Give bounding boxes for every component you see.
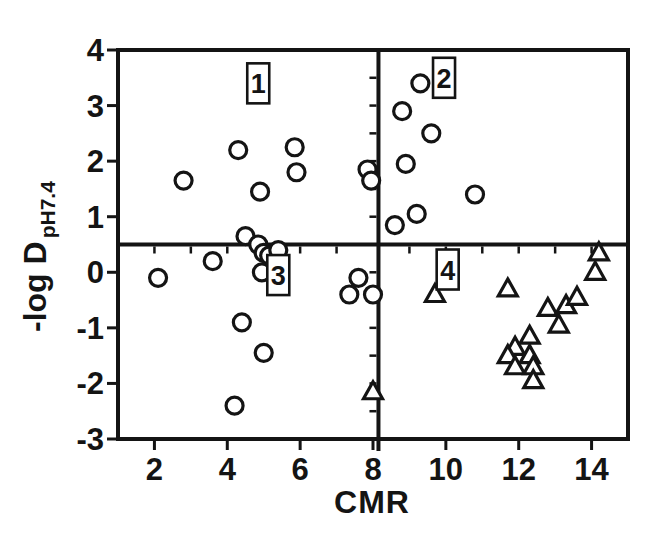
data-point-circle — [252, 183, 269, 200]
x-tick-label: 14 — [574, 452, 609, 487]
data-point-circle — [233, 314, 250, 331]
data-point-triangle — [568, 287, 587, 304]
y-tick-label: 1 — [87, 200, 104, 235]
x-tick-label: 12 — [501, 452, 535, 487]
quadrant-label-number: 3 — [271, 261, 286, 291]
quadrant-label-number: 1 — [251, 69, 266, 99]
data-point-circle — [467, 186, 484, 203]
data-point-circle — [365, 286, 382, 303]
y-tick-label: 2 — [87, 144, 104, 179]
y-tick-label: -1 — [76, 311, 104, 346]
axes-layer: 246810121443210-1-2-3 — [76, 33, 628, 487]
data-point-circle — [394, 103, 411, 120]
y-axis-title: -log DpH7.4 — [17, 181, 59, 332]
scatter-plot: 246810121443210-1-2-3 1234 CMR -log DpH7… — [0, 0, 658, 555]
data-point-circle — [341, 286, 358, 303]
y-axis-title-subscript: pH7.4 — [36, 181, 59, 239]
data-point-circle — [286, 139, 303, 156]
data-point-circle — [175, 172, 192, 189]
data-point-triangle — [538, 298, 557, 315]
y-tick-label: -3 — [76, 422, 104, 457]
data-point-circle — [255, 344, 272, 361]
data-point-circle — [363, 172, 380, 189]
x-tick-label: 6 — [292, 452, 309, 487]
data-point-circle — [397, 155, 414, 172]
y-tick-label: 0 — [87, 255, 104, 290]
y-axis-title-main: -log D — [17, 241, 53, 332]
x-axis-title: CMR — [334, 484, 410, 520]
y-tick-label: -2 — [76, 366, 104, 401]
data-point-circle — [350, 269, 367, 286]
x-tick-label: 2 — [146, 452, 163, 487]
data-point-circle — [204, 253, 221, 270]
data-point-triangle — [586, 262, 605, 279]
data-point-triangle — [498, 279, 517, 296]
data-point-circle — [226, 397, 243, 414]
data-point-circle — [423, 125, 440, 142]
data-point-circle — [386, 217, 403, 234]
quadrant-label-number: 2 — [437, 64, 452, 94]
quadrant-labels-layer: 1234 — [247, 58, 458, 295]
x-tick-label: 4 — [219, 452, 237, 487]
data-point-triangle — [520, 326, 539, 343]
data-point-triangle — [549, 315, 568, 332]
data-point-circle — [150, 269, 167, 286]
data-point-circle — [408, 205, 425, 222]
x-tick-label: 10 — [429, 452, 463, 487]
y-tick-label: 4 — [87, 33, 105, 68]
quadrant-label-number: 4 — [440, 256, 455, 286]
data-point-circle — [230, 142, 247, 159]
x-tick-label: 8 — [364, 452, 381, 487]
data-point-circle — [412, 75, 429, 92]
data-point-circle — [288, 164, 305, 181]
figure-canvas: 246810121443210-1-2-3 1234 CMR -log DpH7… — [0, 0, 658, 555]
y-tick-label: 3 — [87, 89, 104, 124]
